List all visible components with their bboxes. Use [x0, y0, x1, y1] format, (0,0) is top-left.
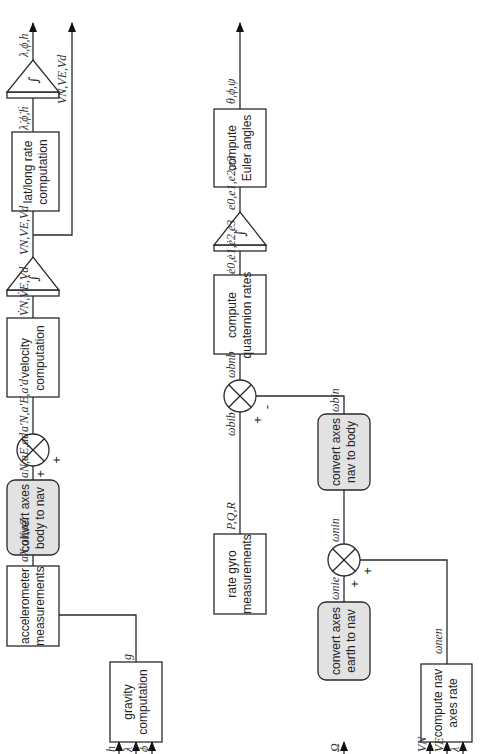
label-omega-en: ωnen	[431, 628, 445, 654]
block-velocity-line2: computation	[33, 325, 47, 390]
label-quat-dot: ė0,ė1,ė2,ė3	[224, 220, 238, 274]
sign-nav-ie: +	[347, 580, 362, 588]
block-euler-line2: Euler angles	[240, 115, 254, 182]
label-omega-in-nav: ωnin	[328, 518, 342, 542]
label-vel: VN,VE,Vd	[17, 205, 31, 255]
sign-gyro-main: +	[250, 416, 265, 424]
sum-nav-rate	[328, 544, 360, 576]
block-quaternion-rates: compute quaternion rates	[214, 272, 266, 359]
block-nav-to-body-line2: nav to body	[344, 421, 358, 483]
block-latlong-line1: lat/long rate	[21, 140, 35, 203]
block-nav-to-body-line1: convert axes	[329, 418, 343, 486]
sum-gyro	[224, 380, 256, 412]
block-gravity: gravity computation	[110, 662, 162, 742]
block-accelerometer-line1: accelerometer	[18, 568, 32, 644]
label-vel-dot: V̇N,V̇E,V̇d	[17, 266, 31, 316]
label-in-lat: λ	[448, 747, 462, 753]
sign-gyro-feedback: -	[259, 405, 274, 409]
block-latlong: lat/long rate computation	[12, 132, 59, 211]
label-in-vn: VN	[415, 736, 429, 752]
block-rate-gyro-line1: rate gyro	[225, 550, 239, 598]
block-velocity-line1: velocity	[18, 338, 32, 378]
block-quaternion-line2: quaternion rates	[240, 272, 254, 359]
label-in-h: h	[104, 746, 118, 752]
label-in-ve: VE	[432, 737, 446, 752]
block-euler-angles: compute Euler angles	[214, 109, 266, 187]
ins-block-diagram: accelerometer measurements convert axes …	[0, 0, 486, 754]
block-body-to-nav-line2: body to nav	[33, 487, 47, 549]
block-nav-rate-line2: axes rate	[446, 678, 460, 728]
block-latlong-line2: computation	[36, 139, 50, 204]
integrator-velocity: ∫	[7, 257, 59, 296]
sign-accel-gravity: +	[49, 456, 64, 464]
label-accel-body: aX,aY,aZ	[17, 518, 31, 562]
block-quaternion-line1: compute	[225, 292, 239, 338]
integrator-position: ∫	[7, 60, 59, 98]
sign-accel-main: +	[33, 470, 48, 478]
label-accel-corrected: a'N,a'E,a'd	[17, 378, 31, 432]
label-gyro: P,Q,R	[224, 502, 238, 531]
block-earth-to-nav-line2: earth to nav	[344, 609, 358, 672]
label-pos-out: λ,ϕ,h	[17, 34, 31, 58]
block-accelerometer-line2: measurements	[33, 566, 47, 645]
diagram-page: accelerometer measurements convert axes …	[0, 0, 486, 754]
block-gravity-line2: computation	[136, 669, 150, 734]
block-nav-to-body: convert axes nav to body	[318, 414, 370, 490]
label-euler-out: θ,ϕ,ψ	[224, 78, 238, 104]
label-omega-nb: ωbnb	[224, 352, 238, 378]
block-rate-gyro: rate gyro measurements	[214, 534, 266, 614]
block-rate-gyro-line2: measurements	[240, 534, 254, 613]
block-accelerometer: accelerometer measurements	[7, 566, 59, 646]
wire-navrate-to-navsum	[360, 560, 447, 672]
block-earth-to-nav-line1: convert axes	[329, 607, 343, 675]
label-omega-ie: ωnie	[328, 576, 342, 600]
label-in-lambda: λ	[121, 747, 135, 753]
block-nav-axes-rate: compute nav axes rate	[421, 664, 472, 742]
label-gravity: g	[120, 654, 134, 660]
label-accel-nav: aN,aE,ad	[17, 432, 31, 478]
sign-nav-en: +	[360, 567, 375, 575]
block-earth-to-nav: convert axes earth to nav	[318, 602, 370, 680]
label-in-phi: ϕ	[137, 746, 151, 752]
label-omega-in-body: ωbin	[328, 388, 342, 412]
label-omega-ib: ωbib	[224, 412, 238, 436]
block-nav-rate-line1: compute nav	[431, 669, 445, 738]
integrator-quaternion: ∫	[214, 212, 266, 251]
label-pos-dot: λ̇,ϕ̇,ḣ	[17, 107, 31, 131]
label-earth-rate: Ω	[328, 743, 342, 752]
block-velocity: velocity computation	[7, 318, 59, 397]
label-vel-out: VN,VE,Vd	[55, 54, 69, 104]
block-gravity-line1: gravity	[121, 684, 135, 719]
label-quat: e0,e1,e2,e3	[224, 156, 238, 210]
block-body-to-nav: convert axes body to nav	[7, 480, 59, 555]
integral-icon: ∫	[26, 76, 41, 83]
